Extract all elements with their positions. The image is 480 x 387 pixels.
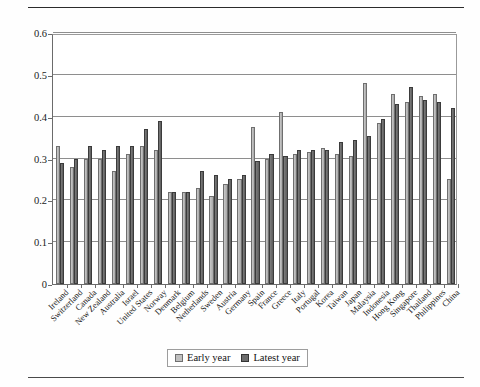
bar-group	[402, 35, 416, 284]
bar-group	[179, 35, 193, 284]
bar-latest-year	[74, 159, 78, 285]
bar-group	[430, 35, 444, 284]
bar-latest-year	[437, 102, 441, 284]
bar-latest-year	[214, 175, 218, 284]
bar-latest-year	[269, 154, 273, 284]
bar-group	[109, 35, 123, 284]
bar-latest-year	[395, 104, 399, 284]
bar-group	[388, 35, 402, 284]
y-tick-label: 0.2	[17, 196, 47, 207]
bar-latest-year	[423, 100, 427, 284]
bar-latest-year	[130, 146, 134, 284]
y-tick-label: 0.5	[17, 71, 47, 82]
bar-group	[262, 35, 276, 284]
bar-latest-year	[242, 175, 246, 284]
x-tick-mark	[458, 284, 459, 288]
bar-group	[318, 35, 332, 284]
bar-latest-year	[172, 192, 176, 284]
bar-group	[137, 35, 151, 284]
bar-group	[332, 35, 346, 284]
bar-group	[276, 35, 290, 284]
bar-group	[235, 35, 249, 284]
bar-latest-year	[367, 136, 371, 285]
bar-group	[416, 35, 430, 284]
bar-group	[304, 35, 318, 284]
bar-latest-year	[409, 87, 413, 284]
legend-label: Early year	[187, 352, 230, 363]
top-divider	[28, 7, 464, 8]
bar-latest-year	[325, 150, 329, 284]
bar-latest-year	[451, 108, 455, 284]
legend-label: Latest year	[253, 352, 299, 363]
bar-latest-year	[144, 129, 148, 284]
bar-group	[95, 35, 109, 284]
bar-group	[360, 35, 374, 284]
bar-group	[249, 35, 263, 284]
bar-group	[374, 35, 388, 284]
y-tick-label: 0.4	[17, 113, 47, 124]
bar-latest-year	[353, 140, 357, 284]
bar-latest-year	[116, 146, 120, 284]
bar-group	[123, 35, 137, 284]
bar-latest-year	[228, 179, 232, 284]
bar-group	[221, 35, 235, 284]
bar-group	[290, 35, 304, 284]
bar-latest-year	[283, 156, 287, 284]
bar-latest-year	[339, 142, 343, 284]
bar-series-container	[53, 35, 456, 284]
bar-group	[67, 35, 81, 284]
gridline-0-6	[53, 32, 456, 33]
bar-group	[53, 35, 67, 284]
legend-item: Latest year	[241, 352, 299, 363]
y-tick-label: 0.1	[17, 238, 47, 249]
bar-latest-year	[200, 171, 204, 284]
y-tick-label: 0.6	[17, 29, 47, 40]
x-axis-tick-labels: IrelandSwitzerlandCanadaNew ZealandAustr…	[52, 286, 457, 346]
bar-group	[165, 35, 179, 284]
bar-latest-year	[311, 150, 315, 284]
chart-page: 00.10.20.30.40.50.6 IrelandSwitzerlandCa…	[0, 0, 480, 387]
bar-group	[193, 35, 207, 284]
legend-swatch-icon	[241, 354, 249, 362]
bar-latest-year	[60, 163, 64, 284]
bar-group	[81, 35, 95, 284]
legend-swatch-icon	[175, 354, 183, 362]
bar-latest-year	[88, 146, 92, 284]
bar-latest-year	[158, 121, 162, 284]
legend-item: Early year	[175, 352, 230, 363]
bar-latest-year	[255, 161, 259, 284]
bar-latest-year	[102, 150, 106, 284]
chart-legend: Early yearLatest year	[167, 349, 308, 367]
plot-area	[52, 34, 457, 285]
y-tick-label: 0	[17, 280, 47, 291]
bar-group	[346, 35, 360, 284]
bottom-divider	[28, 377, 464, 378]
bar-latest-year	[297, 150, 301, 284]
bar-group	[444, 35, 458, 284]
bar-group	[207, 35, 221, 284]
y-tick-label: 0.3	[17, 155, 47, 166]
bar-latest-year	[186, 192, 190, 284]
bar-group	[151, 35, 165, 284]
bar-latest-year	[381, 119, 385, 284]
